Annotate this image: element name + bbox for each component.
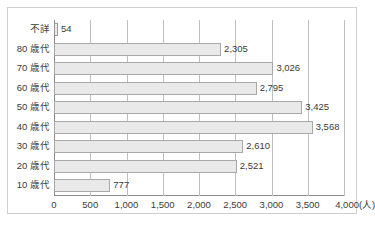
- bar-row: 60 歳代2,795: [54, 79, 344, 99]
- bar: [54, 62, 273, 75]
- category-label: 不詳: [30, 22, 50, 36]
- bar-row: 不詳54: [54, 20, 344, 40]
- bar-value-label: 777: [113, 178, 129, 192]
- bar: [54, 43, 221, 56]
- bar-row: 10 歳代777: [54, 176, 344, 196]
- bar-row: 20 歳代2,521: [54, 157, 344, 177]
- bar: [54, 140, 243, 153]
- chart-figure: 不詳5480 歳代2,30570 歳代3,02660 歳代2,79550 歳代3…: [7, 7, 357, 214]
- x-tick-label: 2,000: [187, 199, 211, 211]
- x-tick-label: 1,000: [115, 199, 139, 211]
- bar-row: 70 歳代3,026: [54, 59, 344, 79]
- bar: [54, 82, 257, 95]
- x-tick-label: 3,000: [260, 199, 284, 211]
- x-tick-label: 0: [51, 199, 56, 211]
- bar-value-label: 2,305: [224, 42, 248, 56]
- x-tick-label: 1,500: [151, 199, 175, 211]
- bar: [54, 160, 237, 173]
- x-tick-label: 3,500: [296, 199, 320, 211]
- bar-row: 50 歳代3,425: [54, 98, 344, 118]
- plot-area: 不詳5480 歳代2,30570 歳代3,02660 歳代2,79550 歳代3…: [54, 20, 344, 196]
- bar-row: 40 歳代3,568: [54, 118, 344, 138]
- bar-value-label: 2,610: [246, 139, 270, 153]
- category-label: 60 歳代: [17, 81, 50, 95]
- category-label: 30 歳代: [17, 139, 50, 153]
- bar-value-label: 3,568: [316, 120, 340, 134]
- bar-row: 30 歳代2,610: [54, 137, 344, 157]
- category-label: 80 歳代: [17, 42, 50, 56]
- category-label: 40 歳代: [17, 120, 50, 134]
- bar: [54, 179, 110, 192]
- bar-value-label: 54: [61, 22, 72, 36]
- bar: [54, 23, 58, 36]
- bar-value-label: 3,425: [305, 100, 329, 114]
- category-label: 70 歳代: [17, 61, 50, 75]
- bar: [54, 121, 313, 134]
- x-tick-label: 4,000(人): [335, 199, 375, 211]
- bar-value-label: 2,521: [240, 159, 264, 173]
- category-label: 50 歳代: [17, 100, 50, 114]
- x-tick-label: 2,500: [223, 199, 247, 211]
- bar-value-label: 3,026: [276, 61, 300, 75]
- bar-value-label: 2,795: [260, 81, 284, 95]
- gridline-4000: [344, 20, 345, 196]
- category-label: 20 歳代: [17, 159, 50, 173]
- category-label: 10 歳代: [17, 178, 50, 192]
- bar-row: 80 歳代2,305: [54, 40, 344, 60]
- x-tick-label: 500: [82, 199, 98, 211]
- bar: [54, 101, 302, 114]
